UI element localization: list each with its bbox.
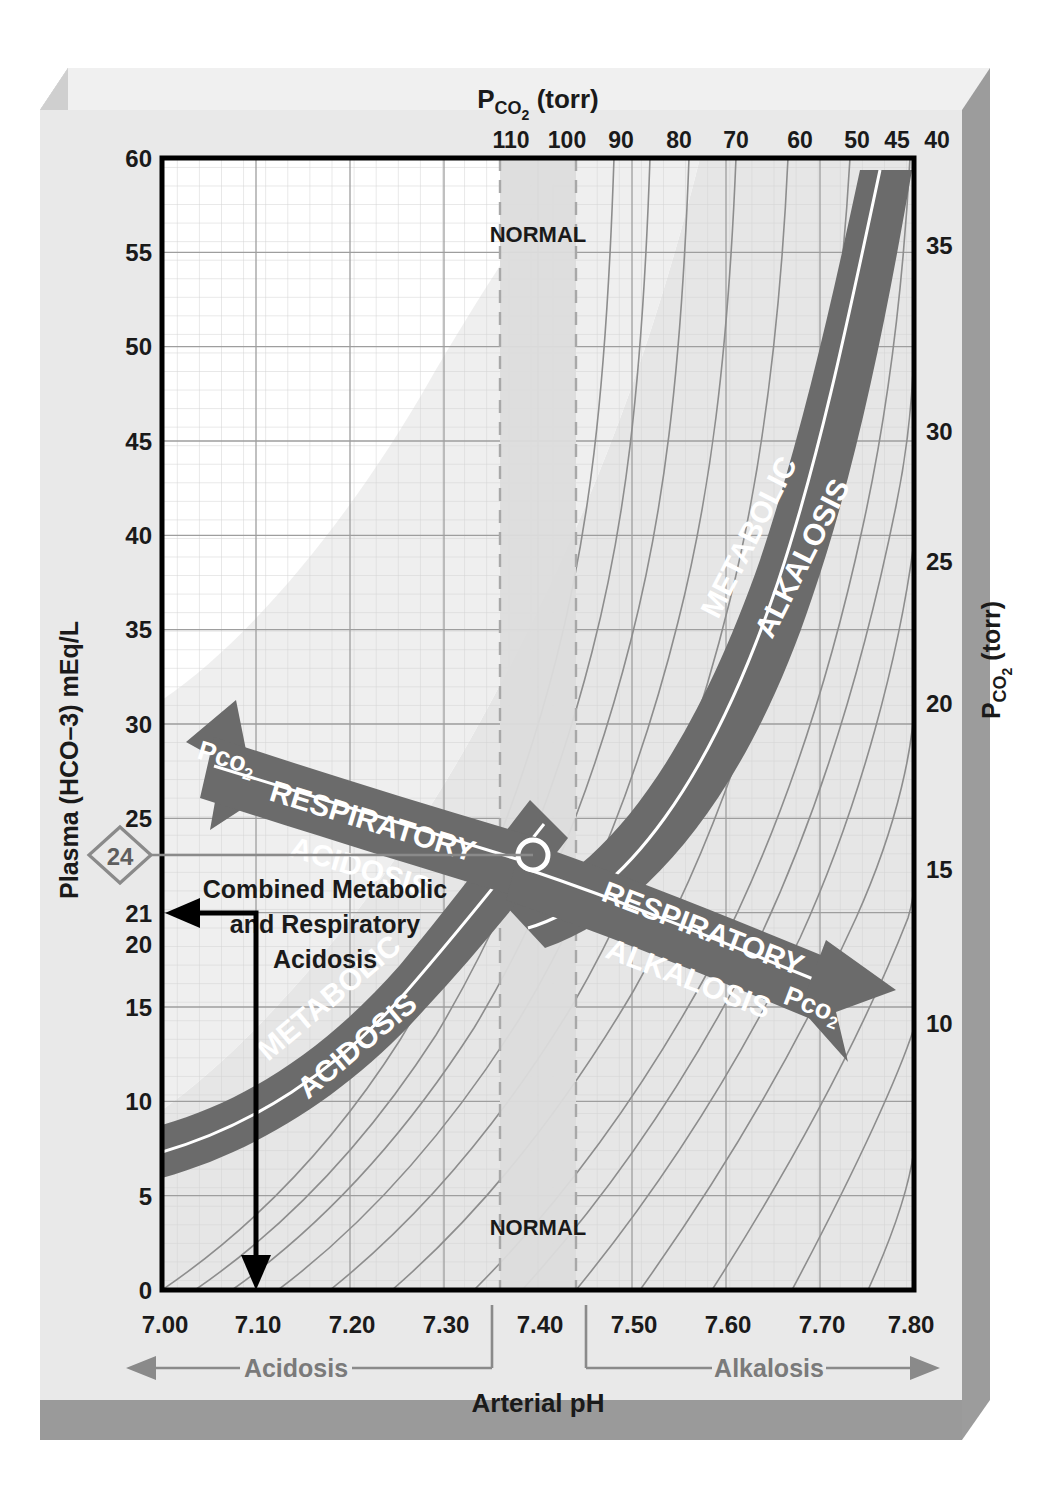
bottom-tick-750: 7.50 <box>611 1311 658 1338</box>
reference-marker-24-label: 24 <box>107 843 134 870</box>
top-tick-50: 50 <box>844 127 870 153</box>
normal-label-top: NORMAL <box>490 222 587 247</box>
bottom-tick-700: 7.00 <box>142 1311 189 1338</box>
top-tick-100: 100 <box>548 127 586 153</box>
top-tick-80: 80 <box>666 127 692 153</box>
alkalosis-label: Alkalosis <box>714 1354 824 1382</box>
bottom-tick-740: 7.40 <box>517 1311 564 1338</box>
normal-band <box>500 158 576 1290</box>
normal-band-fill <box>500 158 576 1290</box>
normal-label-bottom: NORMAL <box>490 1215 587 1240</box>
top-tick-60: 60 <box>787 127 813 153</box>
acid-base-nomogram: Pco2 RESPIRATORY ACIDOSIS RESPIRATORY AL… <box>0 0 1052 1506</box>
left-tick-40: 40 <box>125 522 152 549</box>
bottom-tick-720: 7.20 <box>329 1311 376 1338</box>
left-tick-60: 60 <box>125 145 152 172</box>
bottom-tick-770: 7.70 <box>799 1311 846 1338</box>
top-tick-45: 45 <box>884 127 910 153</box>
right-tick-20: 20 <box>926 690 953 717</box>
left-tick-20: 20 <box>125 931 152 958</box>
left-tick-5: 5 <box>139 1183 152 1210</box>
top-tick-70: 70 <box>723 127 749 153</box>
top-tick-40: 40 <box>924 127 950 153</box>
acidosis-label: Acidosis <box>244 1354 348 1382</box>
left-tick-21: 21 <box>125 900 152 927</box>
combined-line-1: Combined Metabolic <box>203 875 448 903</box>
right-tick-15: 15 <box>926 856 953 883</box>
left-tick-15: 15 <box>125 994 152 1021</box>
left-tick-50: 50 <box>125 333 152 360</box>
left-axis-title: Plasma (HCO–3) mEq/L <box>55 621 83 899</box>
bottom-tick-760: 7.60 <box>705 1311 752 1338</box>
left-tick-45: 45 <box>125 428 152 455</box>
bottom-tick-780: 7.80 <box>888 1311 935 1338</box>
left-tick-30: 30 <box>125 711 152 738</box>
combined-line-3: Acidosis <box>273 945 377 973</box>
right-tick-25: 25 <box>926 548 953 575</box>
right-tick-35: 35 <box>926 232 953 259</box>
left-tick-25: 25 <box>125 805 152 832</box>
bottom-tick-730: 7.30 <box>423 1311 470 1338</box>
right-tick-10: 10 <box>926 1010 953 1037</box>
right-tick-30: 30 <box>926 418 953 445</box>
top-tick-110: 110 <box>492 127 529 153</box>
bottom-axis-title: Arterial pH <box>472 1388 605 1418</box>
left-tick-55: 55 <box>125 239 152 266</box>
left-tick-35: 35 <box>125 616 152 643</box>
figure-root: Pco2 RESPIRATORY ACIDOSIS RESPIRATORY AL… <box>0 0 1052 1506</box>
left-tick-10: 10 <box>125 1088 152 1115</box>
left-tick-0: 0 <box>139 1277 152 1304</box>
bottom-axis-ticks: 7.00 7.10 7.20 7.30 7.40 7.50 7.60 7.70 … <box>142 1311 935 1338</box>
top-tick-90: 90 <box>608 127 634 153</box>
bottom-tick-710: 7.10 <box>235 1311 282 1338</box>
